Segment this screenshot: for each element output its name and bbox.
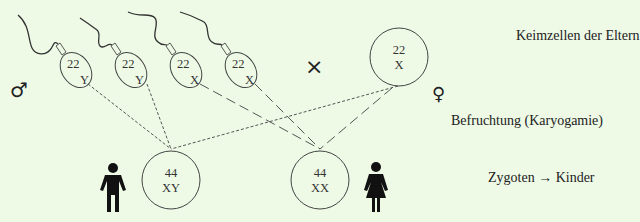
cross-symbol-icon: × [305,54,323,79]
zygote-autosomes: 44 [314,166,327,180]
zygote-circle [291,151,349,209]
sperm-midpiece [166,43,176,55]
male-figure-icon [100,163,126,212]
zygote-sex-chromosomes: XX [311,181,329,195]
egg-sex-chromosome: X [394,58,403,72]
female-figure-icon [364,162,388,212]
sperm-sex-chromosome: Y [135,73,144,87]
sperm-sex-chromosome: X [190,73,199,87]
zygote-circle [142,151,200,209]
zygote-xx: 44 XX [291,151,349,209]
zygote-xy: 44 XY [142,151,200,209]
sperm-tail [128,12,167,45]
label-zygotes: Zygoten → Kinder [488,170,595,186]
sperm-tail [180,12,222,45]
sperm-autosomes: 22 [232,57,245,71]
sperm-midpiece [111,43,121,55]
sperm-autosomes: 22 [122,57,135,71]
sperm-tail [18,15,58,54]
line-egg-to-xx [320,88,392,149]
female-symbol-icon: ♀ [432,83,445,104]
line-sperm3-to-xx [200,84,320,149]
label-gametes: Keimzellen der Eltern [516,28,640,44]
zygote-autosomes: 44 [165,166,178,180]
sperm-tail [80,18,112,47]
male-symbol-icon: ♂ [10,78,28,102]
egg-cell: 22 X [370,28,428,86]
line-sperm1-to-xy [88,84,171,149]
sperm-cell-2: 22 Y [80,18,153,94]
sperm-sex-chromosome: X [245,73,254,87]
zygote-sex-chromosomes: XY [162,181,180,195]
sperm-autosomes: 22 [177,57,190,71]
line-egg-to-xy [171,86,398,149]
sperm-midpiece [221,43,231,55]
sperm-autosomes: 22 [67,57,80,71]
line-sperm4-to-xx [255,84,320,149]
egg-circle [370,28,428,86]
egg-autosomes: 22 [393,43,406,57]
sperm-sex-chromosome: Y [80,73,89,87]
sperm-midpiece [56,43,66,55]
sperm-cell-1: 22 Y [18,15,98,94]
line-sperm2-to-xy [147,84,171,149]
fertilization-lines [88,84,398,149]
label-fertilization: Befruchtung (Karyogamie) [451,113,603,129]
